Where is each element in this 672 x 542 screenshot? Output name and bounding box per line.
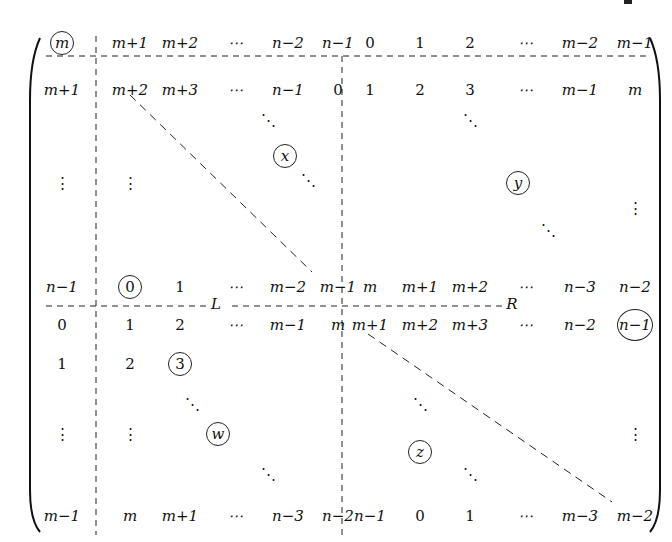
matrix-cell: n−2 <box>619 278 651 296</box>
matrix-cell: ⋱ <box>541 221 556 239</box>
circle-marker: n−1 <box>617 309 653 341</box>
matrix-cell: n−1 <box>272 81 304 99</box>
matrix-cell: m−1 <box>617 34 653 52</box>
matrix-cell: ⋱ <box>463 111 478 129</box>
matrix-cell: m−1 <box>270 316 306 334</box>
matrix-cell: ⋯ <box>518 278 533 296</box>
matrix-cell: m <box>363 278 377 296</box>
matrix-cell: z <box>408 440 432 464</box>
matrix-cell: n−3 <box>564 278 596 296</box>
matrix-cell: w <box>206 422 230 446</box>
circle-marker: m <box>50 31 74 55</box>
matrix-cell: m−1 <box>562 81 598 99</box>
matrix-cell: n−3 <box>272 507 304 525</box>
matrix-cell: 0 <box>415 507 425 525</box>
matrix-cell: m+1 <box>402 278 438 296</box>
matrix-cell: 0 <box>57 316 67 334</box>
matrix-cell: 0 <box>365 34 375 52</box>
matrix-cell: ⋱ <box>185 395 200 413</box>
matrix-cell: m+3 <box>162 81 198 99</box>
matrix-cell: ⋮ <box>55 425 70 443</box>
matrix-cell: m+2 <box>112 81 148 99</box>
matrix-cell: ⋯ <box>228 34 243 52</box>
matrix-cell: ⋱ <box>261 465 276 483</box>
matrix-cell: 1 <box>125 316 135 334</box>
matrix-cell: 0 <box>118 275 142 299</box>
matrix-cell: ⋮ <box>628 425 643 443</box>
matrix-cell: m <box>331 316 345 334</box>
matrix-cell: m−3 <box>562 507 598 525</box>
matrix-cell: ⋯ <box>228 278 243 296</box>
matrix-cell: R <box>506 295 517 313</box>
matrix-cell: 1 <box>465 507 475 525</box>
matrix-cell: 0 <box>333 81 343 99</box>
matrix-cell: L <box>211 295 221 313</box>
matrix-cell: ⋱ <box>413 395 428 413</box>
matrix-cell: ⋯ <box>518 34 533 52</box>
matrix-cell: ⋮ <box>123 425 138 443</box>
matrix-cell: m <box>50 31 74 55</box>
matrix-cell: ⋮ <box>55 174 70 192</box>
matrix-cell: ⋯ <box>518 507 533 525</box>
circle-marker: 0 <box>118 275 142 299</box>
matrix-cell: 1 <box>57 355 67 373</box>
circle-marker: 3 <box>168 352 192 376</box>
matrix-cell: ⋮ <box>123 174 138 192</box>
matrix-cell: n−2 <box>322 507 354 525</box>
matrix-cell: m+2 <box>402 316 438 334</box>
matrix-cell: m−2 <box>617 507 653 525</box>
matrix-cell: ⋯ <box>228 81 243 99</box>
matrix-cell: 2 <box>465 34 475 52</box>
matrix-cell: m <box>123 507 137 525</box>
matrix-cell: n−1 <box>354 507 386 525</box>
matrix-cell: ⋯ <box>518 81 533 99</box>
matrix-cell: m+1 <box>112 34 148 52</box>
matrix-cell: m+2 <box>452 278 488 296</box>
matrix-cell: m+1 <box>162 507 198 525</box>
matrix-cell: ⋱ <box>463 465 478 483</box>
matrix-cell: m <box>628 81 642 99</box>
matrix-cell: y <box>506 171 530 195</box>
matrix-cell: n−1 <box>617 309 653 341</box>
matrix-cell: 1 <box>175 278 185 296</box>
matrix-cell: ⋯ <box>518 316 533 334</box>
matrix-cell: 2 <box>175 316 185 334</box>
matrix-cell: 1 <box>365 81 375 99</box>
matrix-cell: m+3 <box>452 316 488 334</box>
matrix-cell: ⋯ <box>228 507 243 525</box>
matrix-cell: n−2 <box>272 34 304 52</box>
matrix-cell: m+1 <box>44 81 80 99</box>
matrix-cell: m−1 <box>320 278 356 296</box>
matrix-cell: 3 <box>465 81 475 99</box>
matrix-cell: m−2 <box>562 34 598 52</box>
circle-marker: y <box>506 171 530 195</box>
matrix-cell: ⋱ <box>301 171 316 189</box>
matrix-cell: m−1 <box>44 507 80 525</box>
matrix-cell: ⋮ <box>628 199 643 217</box>
circle-marker: w <box>206 422 230 446</box>
matrix-cell: 2 <box>415 81 425 99</box>
matrix-cell: x <box>273 144 297 168</box>
matrix-cell: ⋱ <box>261 111 276 129</box>
matrix-cell: m+1 <box>352 316 388 334</box>
circle-marker: z <box>408 440 432 464</box>
matrix-cell: m−2 <box>270 278 306 296</box>
matrix-cell: 2 <box>125 355 135 373</box>
matrix-cell: 1 <box>415 34 425 52</box>
matrix-cell: n−1 <box>46 278 78 296</box>
matrix-cell: n−1 <box>322 34 354 52</box>
circle-marker: x <box>273 144 297 168</box>
matrix-cell: n−2 <box>564 316 596 334</box>
matrix-cell: 3 <box>168 352 192 376</box>
matrix-cell: m+2 <box>162 34 198 52</box>
matrix-cell: ⋯ <box>228 316 243 334</box>
